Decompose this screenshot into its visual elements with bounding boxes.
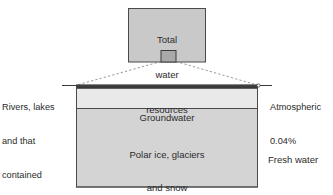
diagram-canvas: Total water resources Groundwater Polar … [0, 0, 333, 195]
fresh-water-label-text: Fresh water [268, 154, 333, 165]
rivers-lakes-callout-label: Rivers, lakes and that contained in orga… [2, 79, 74, 195]
atmospheric-label-line-1: Atmospheric [270, 102, 333, 113]
leader-endpoint-right [257, 84, 260, 87]
groundwater-label-text: Groundwater [76, 112, 258, 123]
rivers-label-line-3: contained [2, 170, 74, 181]
polar-ice-label: Polar ice, glaciers and snow [76, 126, 258, 195]
polar-ice-label-line-1: Polar ice, glaciers [76, 149, 258, 160]
polar-ice-label-line-2: and snow [76, 182, 258, 193]
fresh-water-callout-label: Fresh water [268, 132, 333, 187]
total-label-line-2: water [128, 69, 206, 81]
rivers-label-line-2: and that [2, 136, 74, 147]
total-label-line-1: Total [128, 34, 206, 46]
rivers-label-line-1: Rivers, lakes [2, 102, 74, 113]
